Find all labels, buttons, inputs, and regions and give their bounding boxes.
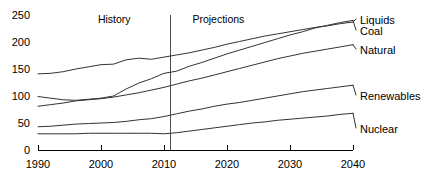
series-label-renewables: Renewables [360,90,421,102]
energy-consumption-chart: 050100150200250 199020002010202020302040… [0,0,427,187]
series-line-natural [38,45,353,107]
x-tick-label-2030: 2030 [270,158,310,170]
leader-line-natural [353,45,356,49]
label-leader-lines [353,19,356,128]
x-tick-label-1990: 1990 [18,158,58,170]
annotation-projections: Projections [192,13,244,25]
y-tick-label-100: 100 [0,90,30,102]
y-tick-label-250: 250 [0,9,30,21]
leader-line-renewables [353,85,356,95]
axes [38,15,354,150]
leader-line-nuclear [353,113,356,128]
series-line-renewables [38,85,353,127]
annotation-history: History [98,13,131,25]
y-tick-label-200: 200 [0,36,30,48]
x-tick-label-2000: 2000 [81,158,121,170]
series-line-coal [38,20,353,100]
leader-line-coal [353,20,356,30]
series-label-coal: Coal [360,25,383,37]
y-tick-label-50: 50 [0,117,30,129]
series-label-natural: Natural [360,44,395,56]
x-tick-label-2040: 2040 [333,158,373,170]
y-tick-label-150: 150 [0,63,30,75]
series-label-nuclear: Nuclear [360,123,398,135]
series-lines [38,20,353,133]
x-tick-label-2020: 2020 [207,158,247,170]
series-line-liquids [38,22,353,74]
y-tick-label-0: 0 [0,144,30,156]
x-tick-label-2010: 2010 [144,158,184,170]
